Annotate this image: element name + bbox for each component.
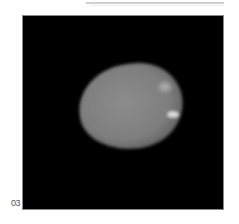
highlight-spot-upper: [159, 82, 171, 92]
panel-label: 03: [11, 198, 20, 208]
object-image: [74, 57, 189, 156]
highlight-spot: [167, 111, 179, 118]
header-rule: [86, 2, 224, 4]
image-panel: [22, 15, 224, 210]
header-rule-secondary: [90, 5, 224, 6]
